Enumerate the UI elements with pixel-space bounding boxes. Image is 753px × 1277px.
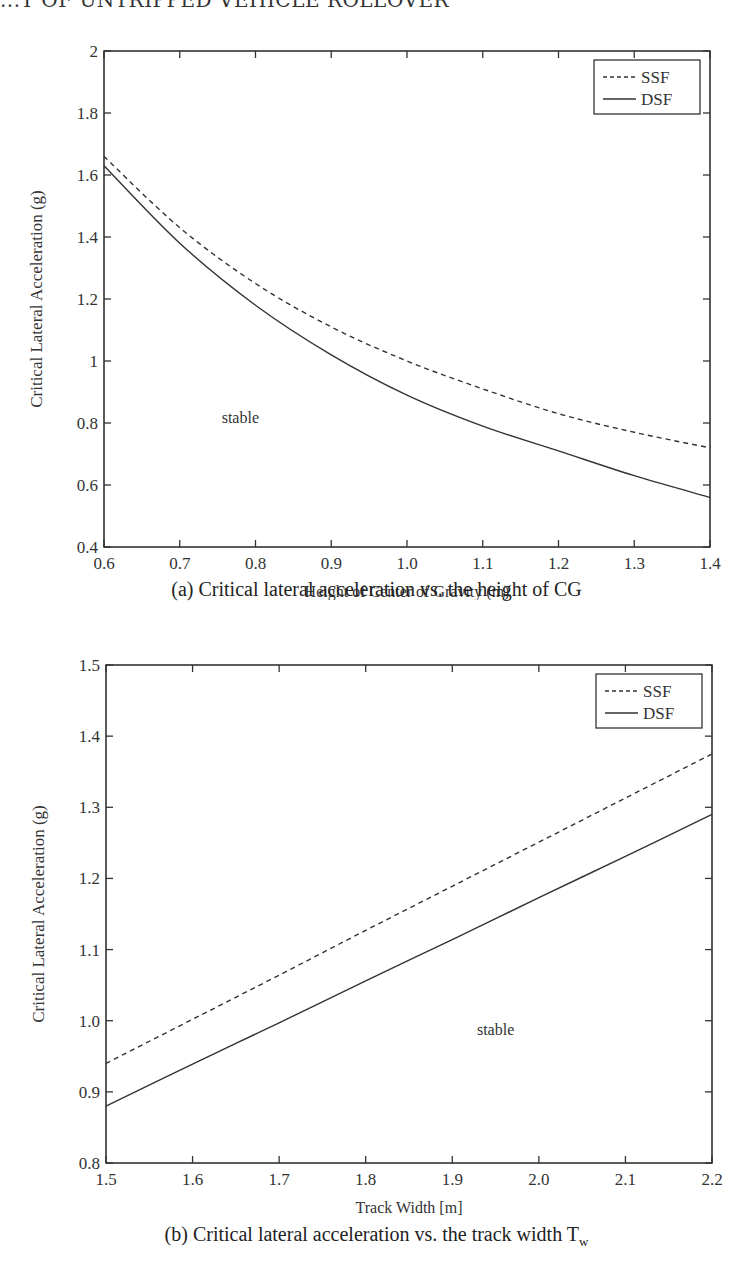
chart-a-legend-label-dsf: DSF (641, 90, 672, 109)
chart-b-x-tick-label: 2.2 (701, 1170, 722, 1189)
chart-a-x-tick-label: 1.3 (624, 554, 645, 573)
chart-b-x-tick-label: 2.0 (528, 1170, 549, 1189)
chart-a-series-dsf (104, 166, 710, 498)
chart-a-y-tick-label: 1.8 (77, 104, 98, 123)
chart-track-width: 1.51.61.71.81.92.02.12.20.80.91.01.11.21… (0, 620, 753, 1260)
chart-b-y-tick-label: 1.3 (79, 798, 100, 817)
chart-a-y-tick-label: 2 (90, 42, 99, 61)
chart-a-y-axis-label: Critical Lateral Acceleration (g) (27, 190, 46, 408)
chart-a-y-tick-label: 1.4 (77, 228, 99, 247)
chart-b-x-axis-label: Track Width [m] (356, 1199, 463, 1216)
chart-a-x-tick-label: 1.1 (472, 554, 493, 573)
caption-b: (b) Critical lateral acceleration vs. th… (0, 1223, 753, 1250)
chart-a-y-tick-label: 1 (90, 352, 99, 371)
chart-b-legend: SSFDSF (596, 674, 702, 728)
caption-a: (a) Critical lateral acceleration vs. th… (0, 578, 753, 601)
chart-a-y-tick-label: 0.8 (77, 414, 98, 433)
chart-a-legend-label-ssf: SSF (641, 68, 669, 87)
chart-b-y-tick-label: 0.8 (79, 1154, 100, 1173)
chart-b-legend-label-ssf: SSF (643, 682, 671, 701)
chart-b-x-tick-label: 1.7 (269, 1170, 291, 1189)
chart-b-x-tick-label: 1.9 (442, 1170, 463, 1189)
chart-a-plot-frame (104, 51, 710, 547)
chart-b-y-tick-label: 0.9 (79, 1083, 100, 1102)
chart-b-legend-label-dsf: DSF (643, 704, 674, 723)
chart-b-y-tick-label: 1.4 (79, 727, 101, 746)
chart-b-y-tick-label: 1.1 (79, 941, 100, 960)
chart-a-y-tick-label: 1.2 (77, 290, 98, 309)
chart-b-x-tick-label: 2.1 (615, 1170, 636, 1189)
chart-b-series-ssf (106, 754, 712, 1063)
chart-a-legend: SSFDSF (594, 60, 700, 114)
chart-a-x-tick-label: 1.4 (699, 554, 721, 573)
chart-a-axes: 0.60.70.80.91.01.11.21.31.40.40.60.811.2… (27, 42, 721, 600)
chart-b-stable-annotation: stable (477, 1021, 514, 1038)
chart-a-x-tick-label: 0.7 (169, 554, 191, 573)
chart-b-y-tick-label: 1.5 (79, 656, 100, 675)
chart-b-y-axis-label: Critical Lateral Acceleration (g) (29, 805, 48, 1023)
chart-a-x-tick-label: 1.0 (396, 554, 417, 573)
chart-a-y-tick-label: 1.6 (77, 166, 98, 185)
chart-b-y-tick-label: 1.2 (79, 869, 100, 888)
chart-a-y-tick-label: 0.4 (77, 538, 99, 557)
chart-b-x-tick-label: 1.6 (182, 1170, 203, 1189)
chart-b-y-tick-label: 1.0 (79, 1012, 100, 1031)
chart-a-stable-annotation: stable (222, 409, 259, 426)
caption-b-subscript: w (579, 1234, 588, 1249)
chart-a-series-ssf (104, 156, 710, 447)
chart-b-plot-frame (106, 665, 712, 1163)
chart-height-of-cg: 0.60.70.80.91.01.11.21.31.40.40.60.811.2… (0, 0, 753, 600)
chart-a-y-tick-label: 0.6 (77, 476, 98, 495)
caption-a-text: (a) Critical lateral acceleration vs. th… (171, 578, 581, 600)
chart-a-x-tick-label: 1.2 (548, 554, 569, 573)
chart-b-axes: 1.51.61.71.81.92.02.12.20.80.91.01.11.21… (29, 656, 723, 1216)
chart-a-x-tick-label: 0.9 (321, 554, 342, 573)
caption-b-text: (b) Critical lateral acceleration vs. th… (165, 1223, 579, 1245)
chart-a-x-tick-label: 0.8 (245, 554, 266, 573)
chart-b-x-tick-label: 1.8 (355, 1170, 376, 1189)
chart-b-series-dsf (106, 814, 712, 1106)
